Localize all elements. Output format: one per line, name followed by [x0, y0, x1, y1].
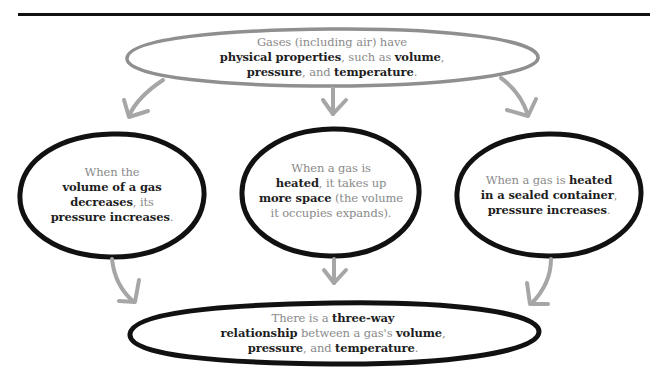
text-line: relationship between a gas's volume, [152, 326, 514, 341]
text-line: There is a three-way [152, 311, 514, 326]
text-line: heated, it takes up [250, 176, 412, 191]
arrow-top-to-right [501, 78, 536, 116]
text-line: decreases, its [32, 195, 192, 210]
text-line: in a sealed container, [466, 188, 632, 203]
arrow-right-to-bottom [527, 259, 551, 304]
text-line: When a gas is heated [466, 173, 632, 188]
arrow-middle-to-bottom [324, 259, 346, 283]
text-line: pressure increases. [32, 210, 192, 225]
text-line: it occupies expands). [250, 206, 412, 221]
middle-node-text: When a gas is heated, it takes up more s… [250, 161, 412, 221]
text-line: When a gas is [250, 161, 412, 176]
text-line: pressure, and temperature. [152, 65, 512, 80]
text-line: more space (the volume [250, 191, 412, 206]
text-line: pressure increases. [466, 203, 632, 218]
bottom-node-text: There is a three-way relationship betwee… [152, 311, 514, 356]
right-node-text: When a gas is heated in a sealed contain… [466, 173, 632, 218]
top-node-text: Gases (including air) have physical prop… [152, 35, 512, 80]
text-line: When the [32, 165, 192, 180]
text-line: Gases (including air) have [152, 35, 512, 50]
arrow-left-to-bottom [112, 259, 139, 302]
left-node-text: When the volume of a gas decreases, its … [32, 165, 192, 225]
text-line: physical properties, such as volume, [152, 50, 512, 65]
text-line: volume of a gas [32, 180, 192, 195]
arrow-top-to-middle [323, 88, 346, 114]
text-line: pressure, and temperature. [152, 341, 514, 356]
arrow-top-to-left [124, 80, 163, 117]
